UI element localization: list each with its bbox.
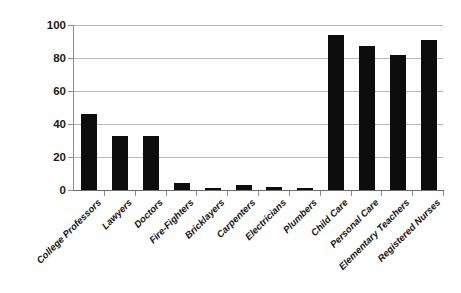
x-axis-label-child-care: Child Care — [98, 197, 349, 293]
x-axis-category-labels: College ProfessorsLawyersDoctorsFire-Fig… — [0, 0, 461, 293]
bar-chart: 100 80 60 40 20 0 College ProfessorsLawy… — [0, 0, 461, 293]
